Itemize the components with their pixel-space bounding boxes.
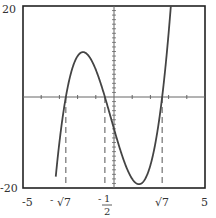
svg-text:-: - [98,193,101,204]
root-label-neg-half: - 1 2 [98,193,112,217]
x-max-label: 5 [201,196,208,209]
x-min-label: -5 [22,196,33,209]
y-max-label: 20 [2,3,16,16]
chart: 20 -20 -5 5 - √7 - 1 2 √7 [0,0,216,218]
svg-text:√7: √7 [57,196,71,209]
svg-text:-: - [50,194,53,205]
root-label-neg-sqrt7: - √7 [50,194,71,209]
y-min-label: -20 [0,182,18,195]
root-label-sqrt7: √7 [155,196,169,209]
svg-text:√7: √7 [155,196,169,209]
svg-text:1: 1 [104,193,110,204]
svg-text:2: 2 [104,206,110,217]
